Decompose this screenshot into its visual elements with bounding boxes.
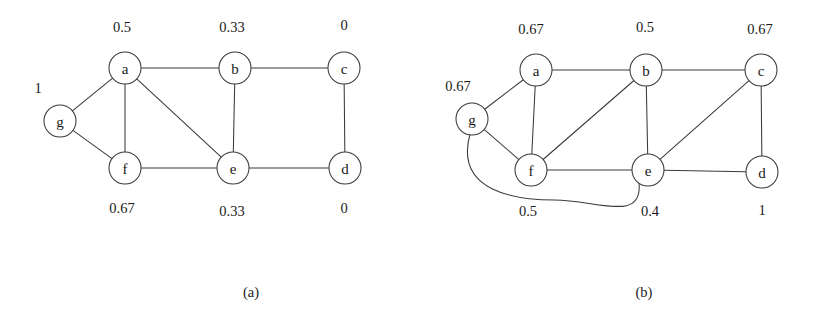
node-group: abcgfed	[44, 52, 361, 184]
value-label-c: 0.67	[747, 21, 772, 37]
node-e[interactable]: e	[217, 152, 249, 184]
value-label-e: 0.33	[219, 203, 244, 219]
graph-panel-b: abcgfed0.670.50.670.670.50.41(b)	[445, 19, 778, 301]
graph-figure: abcgfed0.50.33010.670.330(a)abcgfed0.670…	[0, 0, 819, 330]
node-g[interactable]: g	[456, 103, 488, 135]
node-d[interactable]: d	[746, 156, 778, 188]
node-b[interactable]: b	[630, 54, 662, 86]
node-label-c: c	[758, 63, 765, 79]
node-f[interactable]: f	[515, 154, 547, 186]
value-label-f: 0.67	[109, 200, 134, 216]
value-label-c: 0	[340, 17, 347, 33]
graph-panel-a: abcgfed0.50.33010.670.330(a)	[34, 17, 361, 301]
edge-a-e	[137, 79, 222, 157]
value-label-d: 0	[340, 200, 347, 216]
node-a[interactable]: a	[520, 54, 552, 86]
node-a[interactable]: a	[109, 52, 141, 84]
edge-b-e	[646, 86, 647, 154]
node-label-f: f	[123, 161, 128, 177]
value-label-g: 1	[34, 80, 41, 96]
graph-svg-canvas: abcgfed0.50.33010.670.330(a)abcgfed0.670…	[0, 0, 819, 330]
node-group: abcgfed	[456, 54, 778, 188]
node-label-a: a	[533, 63, 540, 79]
value-label-group: 0.670.50.670.670.50.41	[445, 19, 772, 219]
edge-e-d	[664, 170, 746, 171]
edge-b-f	[543, 80, 634, 159]
value-label-group: 0.50.33010.670.330	[34, 17, 347, 219]
edge-c-d	[344, 84, 345, 152]
node-label-g: g	[468, 112, 476, 128]
node-c[interactable]: c	[745, 54, 777, 86]
edge-c-e	[660, 81, 749, 160]
edge-group	[72, 68, 344, 168]
node-label-g: g	[56, 114, 64, 130]
node-label-b: b	[642, 63, 650, 79]
node-label-e: e	[645, 163, 652, 179]
panel-caption-b: (b)	[636, 284, 653, 301]
value-label-f: 0.5	[519, 203, 537, 219]
value-label-a: 0.67	[518, 21, 543, 37]
node-label-b: b	[231, 61, 239, 77]
edge-c-d	[761, 86, 762, 156]
node-label-e: e	[230, 161, 237, 177]
node-label-d: d	[758, 165, 766, 181]
value-label-a: 0.5	[113, 19, 131, 35]
value-label-g: 0.67	[445, 78, 470, 94]
edge-group	[467, 70, 761, 207]
node-label-c: c	[341, 61, 348, 77]
value-label-b: 0.5	[636, 19, 654, 35]
edge-g-f	[484, 129, 519, 159]
node-label-a: a	[122, 61, 129, 77]
edge-g-f	[73, 130, 112, 158]
node-label-f: f	[529, 163, 534, 179]
node-b[interactable]: b	[219, 52, 251, 84]
node-c[interactable]: c	[328, 52, 360, 84]
node-label-d: d	[341, 161, 349, 177]
panel-caption-a: (a)	[243, 284, 259, 301]
edge-a-f	[532, 86, 535, 154]
edge-g-a	[485, 80, 524, 110]
node-d[interactable]: d	[329, 152, 361, 184]
value-label-e: 0.4	[641, 203, 660, 219]
edge-g-a	[72, 78, 112, 111]
value-label-d: 1	[758, 202, 765, 218]
node-e[interactable]: e	[632, 154, 664, 186]
node-g[interactable]: g	[44, 105, 76, 137]
value-label-b: 0.33	[219, 19, 244, 35]
node-f[interactable]: f	[109, 152, 141, 184]
edge-b-e	[233, 84, 234, 152]
